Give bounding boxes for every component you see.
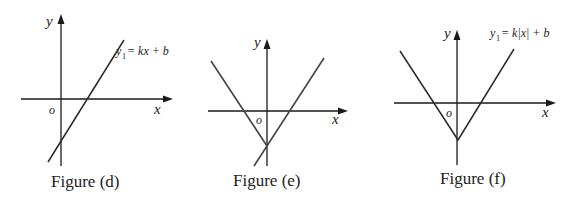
y-axis-arrow-icon [454,30,461,40]
origin-label: o [49,103,55,117]
figure-f: y x o y 1 = k|x| + b Figure (f) [394,25,556,188]
x-axis-label: x [153,101,161,117]
svg-text:= k|x| + b: = k|x| + b [501,26,549,40]
y-axis-arrow-icon [264,39,271,49]
x-axis-label: x [541,104,549,120]
figure-caption: Figure (d) [51,172,119,191]
left-line-graph [211,61,267,146]
figure-caption: Figure (e) [233,171,301,190]
svg-text:y: y [489,26,496,40]
figure-e: y x o Figure (e) [208,34,348,190]
equation-label: y 1 = k|x| + b [489,26,549,43]
origin-label: o [256,113,262,127]
line-graph [48,40,124,162]
x-axis-label: x [331,111,339,127]
figure-d: y x o y 1 = kx + b Figure (d) [21,13,173,191]
y-axis-label: y [44,13,53,29]
y-axis-label: y [252,34,261,50]
y-axis-label: y [442,25,451,41]
origin-label: o [446,106,452,120]
y-axis-arrow-icon [58,14,65,24]
equation-label: y 1 = kx + b [115,44,169,61]
svg-text:y: y [115,44,122,58]
svg-text:1: 1 [496,34,500,43]
svg-text:1: 1 [122,52,126,61]
svg-text:= kx + b: = kx + b [127,44,169,58]
x-axis-arrow-icon [338,108,348,115]
figure-caption: Figure (f) [440,169,506,188]
figures-canvas: y x o y 1 = kx + b Figure (d) y x o Figu… [0,0,578,199]
right-line-graph [254,58,324,166]
x-axis-arrow-icon [163,96,173,103]
